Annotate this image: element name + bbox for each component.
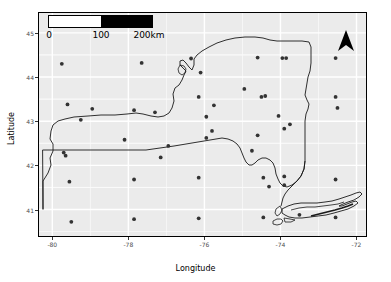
x-tick-label: -80 xyxy=(47,241,57,248)
map-data-point xyxy=(288,122,292,126)
map-data-point xyxy=(90,107,94,111)
map-data-point xyxy=(334,178,338,182)
map-data-point xyxy=(199,71,203,75)
map-data-point xyxy=(64,154,68,158)
y-tick-label: 43 xyxy=(20,118,34,125)
map-data-point xyxy=(282,174,286,178)
y-tick-mark xyxy=(35,210,38,211)
map-data-point xyxy=(280,56,284,60)
map-data-point xyxy=(69,220,73,224)
map-data-point xyxy=(140,61,144,65)
map-data-point xyxy=(334,95,338,99)
map-data-point xyxy=(123,138,127,142)
data-points-layer xyxy=(39,13,366,236)
y-tick-label: 42 xyxy=(20,162,34,169)
y-tick-mark xyxy=(35,33,38,34)
y-axis-title: Latitude xyxy=(7,94,16,164)
y-tick-label: 44 xyxy=(20,74,34,81)
scale-bar-label-100: 100 xyxy=(92,30,109,40)
map-data-point xyxy=(260,95,264,99)
map-data-point xyxy=(334,56,338,60)
map-data-point xyxy=(277,114,281,118)
map-data-point xyxy=(210,129,214,133)
map-data-point xyxy=(66,103,70,107)
map-data-point xyxy=(189,57,193,61)
map-data-point xyxy=(166,144,170,148)
map-data-point xyxy=(282,127,286,131)
map-data-point xyxy=(79,118,83,122)
x-tick-label: -78 xyxy=(123,241,133,248)
map-data-point xyxy=(197,216,201,220)
map-data-point xyxy=(132,217,136,221)
map-data-point xyxy=(132,108,136,112)
x-tick-mark xyxy=(128,237,129,240)
map-data-point xyxy=(284,56,288,60)
scale-bar-label-0: 0 xyxy=(46,30,52,40)
x-tick-mark xyxy=(356,237,357,240)
map-data-point xyxy=(261,216,265,220)
scale-bar-segment-black xyxy=(101,16,153,27)
y-tick-mark xyxy=(35,165,38,166)
x-tick-mark xyxy=(280,237,281,240)
map-data-point xyxy=(204,136,208,140)
y-tick-label: 41 xyxy=(20,206,34,213)
y-tick-mark xyxy=(35,121,38,122)
x-tick-label: -72 xyxy=(352,241,362,248)
scale-bar-label-200: 200km xyxy=(133,30,164,40)
map-data-point xyxy=(261,176,265,180)
scale-bar-segment-white xyxy=(49,16,101,27)
map-data-point xyxy=(263,94,267,98)
map-data-point xyxy=(197,176,201,180)
map-data-point xyxy=(132,178,136,182)
map-panel xyxy=(38,12,367,237)
x-tick-mark xyxy=(52,237,53,240)
map-data-point xyxy=(242,87,246,91)
scale-bar xyxy=(48,15,153,28)
map-data-point xyxy=(159,155,163,159)
map-figure: 0 100 200km Longitude Latitude -80-78-76… xyxy=(0,0,391,282)
map-data-point xyxy=(250,149,254,153)
map-data-point xyxy=(334,216,338,220)
map-data-point xyxy=(256,56,260,60)
y-tick-label: 45 xyxy=(20,29,34,36)
map-data-point xyxy=(60,62,64,66)
map-data-point xyxy=(197,95,201,99)
map-data-point xyxy=(282,183,286,187)
map-data-point xyxy=(204,115,208,119)
map-data-point xyxy=(153,110,157,114)
north-arrow-icon xyxy=(336,30,356,52)
y-tick-mark xyxy=(35,77,38,78)
map-data-point xyxy=(256,133,260,137)
map-data-point xyxy=(212,103,216,107)
x-tick-label: -76 xyxy=(199,241,209,248)
map-data-point xyxy=(298,213,302,217)
map-data-point xyxy=(68,180,72,184)
map-data-point xyxy=(336,106,340,110)
x-tick-mark xyxy=(204,237,205,240)
x-tick-label: -74 xyxy=(276,241,286,248)
x-axis-title: Longitude xyxy=(0,264,391,273)
map-data-point xyxy=(267,185,271,189)
